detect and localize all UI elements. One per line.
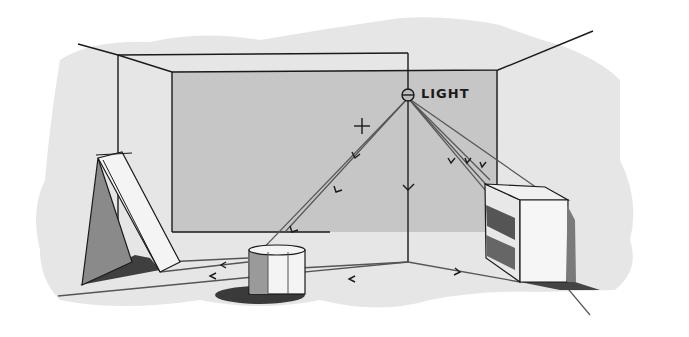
lighting-sketch	[0, 0, 689, 337]
light-label: LIGHT	[421, 86, 470, 101]
light-source-icon	[402, 89, 414, 101]
